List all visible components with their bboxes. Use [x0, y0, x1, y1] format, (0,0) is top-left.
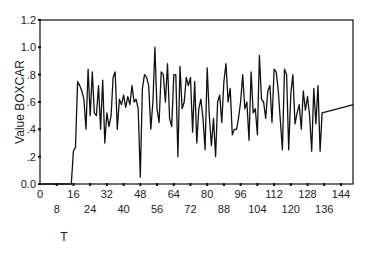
x-tick-label: 64 [168, 188, 180, 200]
x-tick-label: 136 [315, 203, 333, 215]
x-tick-label: 80 [201, 188, 213, 200]
x-tick-label: 16 [67, 188, 79, 200]
x-tick-label: 96 [235, 188, 247, 200]
x-axis-title: T [60, 230, 68, 244]
y-tick-label: .2 [27, 151, 36, 163]
y-tick-label: .6 [27, 96, 36, 108]
boxcar-series-line [40, 47, 354, 184]
x-tick-label: 144 [332, 188, 350, 200]
x-tick-label: 32 [101, 188, 113, 200]
boxcar-line-chart: 0.0.2.4.6.81.01.2 0163248648096112128144… [0, 0, 366, 254]
x-tick-label: 56 [151, 203, 163, 215]
x-tick-label: 8 [54, 203, 60, 215]
x-tick-label: 104 [248, 203, 266, 215]
y-tick-label: 1.2 [21, 14, 36, 26]
x-tick-label: 88 [218, 203, 230, 215]
x-tick-label: 112 [265, 188, 283, 200]
y-tick-label: 1.0 [21, 41, 36, 53]
y-tick-label: .8 [27, 69, 36, 81]
x-tick-label: 0 [37, 188, 43, 200]
x-axis-ticks: 0163248648096112128144824405672881041201… [37, 183, 350, 215]
x-tick-label: 128 [298, 188, 316, 200]
x-tick-label: 40 [117, 203, 129, 215]
x-tick-label: 120 [282, 203, 300, 215]
x-tick-label: 48 [134, 188, 146, 200]
y-tick-label: 0.0 [21, 178, 36, 190]
x-tick-label: 24 [84, 203, 96, 215]
y-axis-title: Value BOXCAR [13, 60, 27, 144]
x-tick-label: 72 [184, 203, 196, 215]
y-tick-label: .4 [27, 123, 36, 135]
